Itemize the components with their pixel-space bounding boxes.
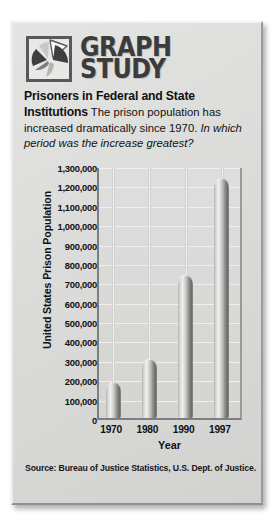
x-axis-ticks: 1970198019901997 [97, 424, 242, 440]
y-tick-label: 1,000,000 [35, 221, 97, 232]
y-tick-label: 800,000 [35, 259, 97, 270]
x-axis-label: Year [97, 439, 242, 451]
y-tick-label: 300,000 [35, 356, 97, 367]
logo-line-study: STUDY [80, 58, 171, 80]
pie-chart-icon [23, 33, 75, 85]
y-axis-ticks: 0100,000200,000300,000400,000500,000600,… [35, 168, 97, 420]
bar-stem [221, 168, 224, 178]
y-tick-label: 600,000 [35, 298, 97, 309]
bar-stem [112, 168, 115, 382]
bar-1980 [142, 359, 157, 418]
plot-area [97, 168, 242, 420]
bar-1970 [106, 382, 121, 418]
y-tick-label: 900,000 [35, 240, 97, 251]
page-title-part2: Institutions [24, 105, 88, 119]
y-tick-label: 1,100,000 [35, 201, 97, 212]
x-tick-label: 1997 [209, 424, 231, 435]
x-tick-label: 1970 [100, 424, 122, 435]
gridline [99, 168, 240, 169]
y-tick-label: 0 [35, 415, 97, 426]
x-tick-label: 1980 [136, 424, 158, 435]
source-note: Source: Bureau of Justice Statistics, U.… [25, 463, 256, 473]
y-tick-label: 1,300,000 [35, 163, 97, 174]
bar-1990 [178, 275, 193, 418]
bar-stem [148, 168, 151, 359]
bar-stem [185, 168, 188, 275]
y-tick-label: 700,000 [35, 279, 97, 290]
bar-chart: United States Prison Population 0100,000… [13, 168, 261, 458]
graph-study-card: GRAPH STUDY Prisoners in Federal and Sta… [11, 21, 263, 505]
y-tick-label: 200,000 [35, 376, 97, 387]
logo-wordmark: GRAPH STUDY [80, 36, 179, 83]
heading-block: Prisoners in Federal and State Instituti… [24, 89, 254, 151]
y-tick-label: 400,000 [35, 337, 97, 348]
pie-chart-slices [23, 33, 75, 85]
bar-1997 [214, 178, 229, 418]
graph-study-logo: GRAPH STUDY [23, 28, 179, 90]
y-tick-label: 500,000 [35, 318, 97, 329]
x-tick-label: 1990 [173, 424, 195, 435]
y-tick-label: 100,000 [35, 395, 97, 406]
y-tick-label: 1,200,000 [35, 182, 97, 193]
page-title-part1: Prisoners in Federal and State [24, 89, 195, 103]
card-surface: GRAPH STUDY Prisoners in Federal and Sta… [13, 23, 261, 503]
